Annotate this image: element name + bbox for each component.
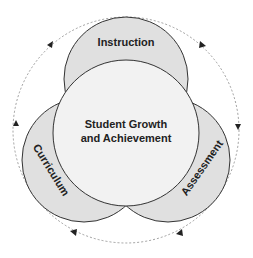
- instruction-label: Instruction: [98, 36, 155, 48]
- cycle-arrow-icon: [13, 120, 19, 126]
- diagram-canvas: Instruction Student Growth and Achieveme…: [0, 0, 253, 258]
- cycle-arrow-icon: [176, 229, 183, 236]
- cycle-arrow-icon: [70, 229, 77, 236]
- cycle-arrow-icon: [199, 41, 206, 48]
- center-label-line2: and Achievement: [81, 132, 172, 144]
- center-label-line1: Student Growth: [85, 118, 168, 130]
- cycle-arrow-icon: [235, 124, 241, 130]
- cycle-arrow-icon: [47, 41, 53, 48]
